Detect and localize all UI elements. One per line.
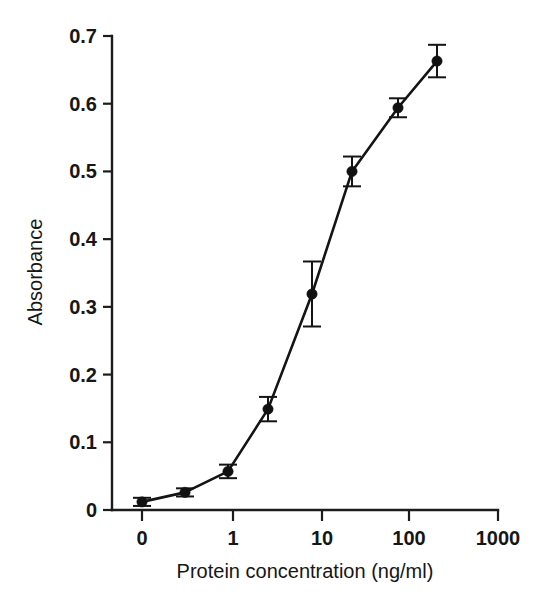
x-tick-label: 10 [311,527,333,549]
absorbance-standard-curve-plot: 00.10.20.30.40.50.60.7 01101001000 Prote… [0,0,538,607]
y-tick-label: 0.3 [69,296,97,318]
y-tick-label: 0.7 [69,25,97,47]
data-point-marker [393,103,403,113]
data-point-marker [137,497,147,507]
y-tick-label: 0.2 [69,364,97,386]
y-tick-label: 0 [86,499,97,521]
y-tick-label: 0.1 [69,431,97,453]
data-point-marker [347,166,357,176]
y-tick-label: 0.4 [69,228,98,250]
x-axis-label: Protein concentration (ng/ml) [177,560,434,582]
x-tick-label: 100 [392,527,425,549]
data-point-marker [223,466,233,476]
data-point-marker [180,487,190,497]
data-point-marker [307,289,317,299]
y-tick-label: 0.6 [69,93,97,115]
x-tick-label: 0 [136,527,147,549]
chart-figure: 00.10.20.30.40.50.60.7 01101001000 Prote… [0,0,538,607]
y-tick-label: 0.5 [69,160,97,182]
data-point-marker [432,56,442,66]
data-point-marker [263,404,273,414]
x-tick-label: 1000 [476,527,521,549]
x-tick-label: 1 [227,527,238,549]
y-axis-label: Absorbance [24,219,46,326]
